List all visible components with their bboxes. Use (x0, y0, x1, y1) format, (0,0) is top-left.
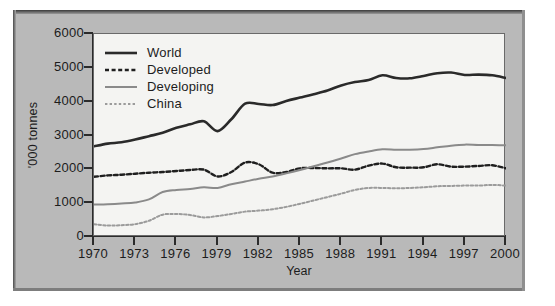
frame-top-edge (13, 10, 525, 14)
y-tick-mark (84, 167, 93, 169)
legend-swatch-dotted-gray-icon (104, 98, 138, 110)
y-tick-label: 1000 (32, 194, 84, 209)
legend-label-developing: Developing (147, 80, 214, 93)
y-tick-label: 2000 (32, 160, 84, 175)
legend-item-world: World (104, 44, 244, 61)
y-tick-mark (84, 201, 93, 203)
legend-label-world: World (147, 46, 182, 59)
x-tick-mark (298, 237, 300, 245)
x-tick-label: 2000 (477, 246, 533, 261)
legend-swatch-solid-dark-icon (104, 47, 138, 59)
legend: World Developed Developing China (104, 44, 244, 112)
frame-left-edge (13, 10, 16, 291)
series-line-developing (94, 145, 506, 205)
legend-item-developed: Developed (104, 61, 244, 78)
chart-figure: '000 tonnes 0100020003000400050006000 19… (0, 0, 555, 306)
x-tick-mark (339, 237, 341, 245)
legend-item-developing: Developing (104, 78, 244, 95)
y-tick-mark (84, 32, 93, 34)
frame-bottom-edge (13, 288, 525, 291)
y-tick-mark (84, 134, 93, 136)
legend-swatch-solid-gray-icon (104, 81, 138, 93)
y-tick-label: 3000 (32, 127, 84, 142)
x-axis-title: Year (93, 264, 505, 278)
series-line-china (94, 185, 506, 226)
x-tick-mark (422, 237, 424, 245)
x-tick-mark (216, 237, 218, 245)
legend-swatch-dashed-dark-icon (104, 64, 138, 76)
y-tick-label: 6000 (32, 25, 84, 40)
y-tick-label: 4000 (32, 93, 84, 108)
x-tick-mark (92, 237, 94, 245)
y-tick-mark (84, 100, 93, 102)
y-tick-label: 5000 (32, 59, 84, 74)
legend-item-china: China (104, 95, 244, 112)
x-tick-mark (257, 237, 259, 245)
x-tick-mark (463, 237, 465, 245)
y-tick-mark (84, 66, 93, 68)
x-tick-mark (174, 237, 176, 245)
y-tick-label: 0 (32, 228, 84, 243)
x-tick-mark (504, 237, 506, 245)
x-tick-mark (133, 237, 135, 245)
legend-label-developed: Developed (147, 63, 211, 76)
x-tick-mark (380, 237, 382, 245)
legend-label-china: China (147, 97, 182, 110)
